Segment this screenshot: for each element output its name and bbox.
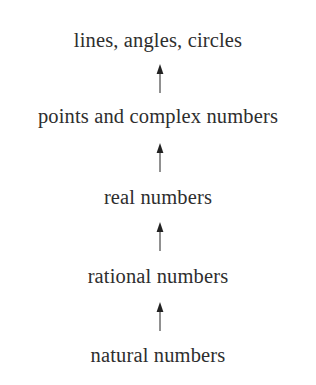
node-lines-angles-circles: lines, angles, circles xyxy=(0,28,316,52)
arrow-points-to-lines xyxy=(153,64,167,94)
up-arrow-icon xyxy=(153,222,167,252)
arrow-rational-to-real xyxy=(153,222,167,252)
arrow-natural-to-rational xyxy=(153,302,167,332)
up-arrow-icon xyxy=(153,64,167,94)
node-points-and-complex-numbers: points and complex numbers xyxy=(0,104,316,128)
up-arrow-icon xyxy=(153,302,167,332)
arrow-real-to-points xyxy=(153,143,167,173)
node-real-numbers: real numbers xyxy=(0,185,316,209)
up-arrow-icon xyxy=(153,143,167,173)
node-rational-numbers: rational numbers xyxy=(0,264,316,288)
node-natural-numbers: natural numbers xyxy=(0,343,316,367)
